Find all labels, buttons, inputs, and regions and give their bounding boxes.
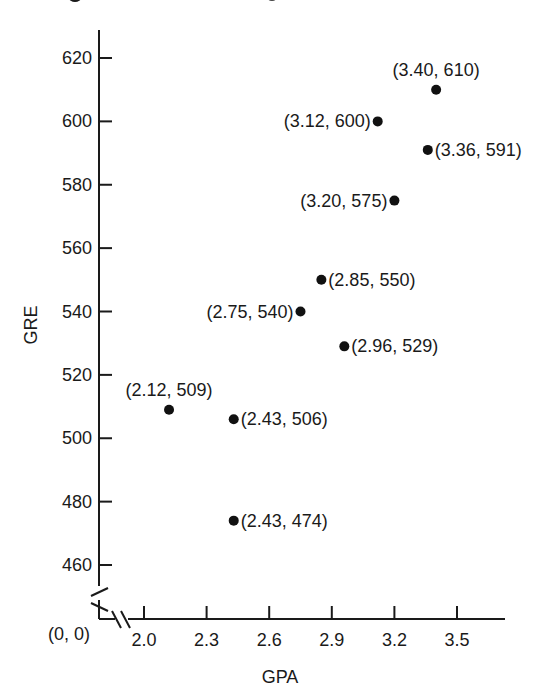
point-label: (2.43, 506) [241,409,328,429]
y-tick-label: 580 [62,175,92,195]
point-marker [431,85,441,95]
point-label: (3.40, 610) [393,60,480,80]
point-marker [164,405,174,415]
y-axis-title: GRE [21,305,41,344]
point-marker [373,116,383,126]
point-marker [229,414,239,424]
data-point: (2.12, 509) [126,380,213,415]
x-ticks: 2.02.32.62.93.23.5 [131,606,469,650]
y-tick-label: 480 [62,492,92,512]
point-marker [389,196,399,206]
x-tick-label: 2.6 [257,630,282,650]
data-point: (2.96, 529) [339,336,438,356]
data-point: (2.85, 550) [316,270,415,290]
point-label: (2.96, 529) [351,336,438,356]
x-tick-label: 2.3 [194,630,219,650]
y-tick-label: 520 [62,365,92,385]
data-points: (3.40, 610)(3.12, 600)(3.36, 591)(3.20, … [126,60,522,531]
y-tick-label: 620 [62,48,92,68]
point-marker [316,275,326,285]
y-tick-label: 540 [62,302,92,322]
x-tick-label: 3.2 [382,630,407,650]
data-point: (3.12, 600) [284,111,383,131]
scatter-plot: 460480500520540560580600620 2.02.32.62.9… [0,0,553,692]
cropped-title-remnant [69,0,276,2]
y-tick-label: 560 [62,238,92,258]
data-point: (2.75, 540) [206,302,305,322]
point-label: (3.36, 591) [435,140,522,160]
y-axis-break-mark [91,588,108,596]
data-point: (3.40, 610) [393,60,480,95]
x-tick-label: 2.0 [131,630,156,650]
y-tick-label: 600 [62,111,92,131]
y-ticks: 460480500520540560580600620 [62,48,112,575]
point-label: (2.85, 550) [328,270,415,290]
point-marker [423,145,433,155]
point-label: (2.75, 540) [206,302,293,322]
point-marker [296,307,306,317]
data-point: (3.20, 575) [300,191,399,211]
data-point: (2.43, 506) [229,409,328,429]
point-label: (2.12, 509) [126,380,213,400]
point-marker [229,516,239,526]
y-tick-label: 500 [62,428,92,448]
origin-label: (0, 0) [48,624,90,644]
point-label: (3.20, 575) [300,191,387,211]
data-point: (2.43, 474) [229,511,328,531]
point-label: (3.12, 600) [284,111,371,131]
x-axis-title: GPA [262,667,299,687]
x-tick-label: 2.9 [319,630,344,650]
point-label: (2.43, 474) [241,511,328,531]
data-point: (3.36, 591) [423,140,522,160]
x-tick-label: 3.5 [444,630,469,650]
y-tick-label: 460 [62,555,92,575]
point-marker [339,341,349,351]
